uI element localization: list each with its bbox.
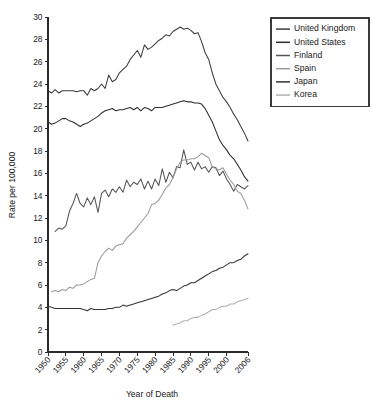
y-tick-label: 14 — [33, 191, 43, 201]
y-tick-label: 26 — [33, 57, 43, 67]
series-line-united-kingdom — [48, 27, 248, 141]
legend-label: Finland — [294, 50, 322, 60]
legend-label: Japan — [294, 76, 318, 86]
x-tick-label: 1970 — [104, 354, 124, 375]
y-axis-ticks: 024681012141618202224262830 — [33, 12, 48, 357]
y-tick-label: 20 — [33, 124, 43, 134]
x-tick-label: 1950 — [33, 354, 53, 375]
chart-legend: United KingdomUnited StatesFinlandSpainJ… — [271, 18, 369, 106]
series-group — [48, 27, 248, 325]
y-tick-label: 30 — [33, 12, 43, 22]
legend-label: Spain — [294, 63, 316, 73]
x-tick-label: 1995 — [193, 354, 213, 375]
y-tick-label: 0 — [38, 347, 43, 357]
plot-area — [48, 27, 248, 325]
line-chart: 024681012141618202224262830 195019551960… — [0, 0, 372, 404]
y-tick-label: 22 — [33, 101, 43, 111]
y-tick-label: 16 — [33, 168, 43, 178]
x-tick-label: 2000 — [211, 354, 231, 375]
x-tick-label: 1985 — [158, 354, 178, 375]
x-tick-label: 1990 — [175, 354, 195, 375]
series-line-korea — [173, 298, 248, 325]
x-tick-label: 1960 — [68, 354, 88, 375]
y-tick-label: 10 — [33, 235, 43, 245]
y-tick-label: 18 — [33, 146, 43, 156]
y-tick-label: 4 — [38, 302, 43, 312]
x-tick-label: 2006 — [233, 354, 253, 375]
x-tick-label: 1965 — [86, 354, 106, 375]
axes-group: 024681012141618202224262830 195019551960… — [33, 12, 253, 375]
y-tick-label: 8 — [38, 258, 43, 268]
x-axis-title: Year of Death — [126, 389, 178, 399]
legend-label: United Kingdom — [294, 23, 355, 33]
y-tick-label: 12 — [33, 213, 43, 223]
x-tick-label: 1980 — [140, 354, 160, 375]
y-tick-label: 2 — [38, 325, 43, 335]
legend-label: Korea — [294, 89, 317, 99]
x-tick-label: 1975 — [122, 354, 142, 375]
x-axis-ticks: 1950195519601965197019751980198519901995… — [33, 352, 253, 375]
chart-container: 024681012141618202224262830 195019551960… — [0, 0, 372, 404]
series-line-finland — [55, 150, 248, 232]
y-tick-label: 24 — [33, 79, 43, 89]
y-axis-title: Rate per 100,000 — [7, 152, 17, 219]
y-tick-label: 6 — [38, 280, 43, 290]
series-line-japan — [48, 254, 248, 311]
y-tick-label: 28 — [33, 34, 43, 44]
legend-label: United States — [294, 37, 346, 47]
x-tick-label: 1955 — [50, 354, 70, 375]
